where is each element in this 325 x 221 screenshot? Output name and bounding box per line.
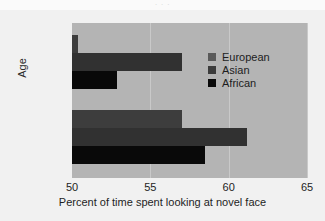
bar-asian-9-months <box>72 53 182 71</box>
legend-item-asian: Asian <box>208 63 270 76</box>
y-axis-title: Age <box>16 38 28 98</box>
legend-item-african: African <box>208 76 270 89</box>
x-tick-label: 60 <box>214 181 244 193</box>
gridline <box>307 23 308 178</box>
bar-asian-3-months <box>72 128 247 146</box>
cropped-text-strip: · · · <box>0 0 325 10</box>
legend-label: European <box>222 51 270 63</box>
legend-swatch-icon <box>208 66 216 74</box>
bar-european-3-months <box>72 110 182 128</box>
legend-label: Asian <box>222 64 250 76</box>
legend-item-european: European <box>208 50 270 63</box>
x-tick-label: 65 <box>292 181 322 193</box>
x-tick-label: 50 <box>57 181 87 193</box>
bar-african-9-months <box>72 71 117 89</box>
x-axis-title: Percent of time spent looking at novel f… <box>0 196 325 208</box>
gridline <box>229 23 230 178</box>
legend-label: African <box>222 77 256 89</box>
legend-swatch-icon <box>208 79 216 87</box>
bar-european-9-months <box>72 35 78 53</box>
x-tick-label: 55 <box>135 181 165 193</box>
bar-african-3-months <box>72 146 205 164</box>
chart-figure: · · · Age 9 months3 months 50556065 Perc… <box>0 0 325 221</box>
chart-legend: EuropeanAsianAfrican <box>208 50 270 89</box>
plot-area <box>72 23 307 178</box>
legend-swatch-icon <box>208 53 216 61</box>
